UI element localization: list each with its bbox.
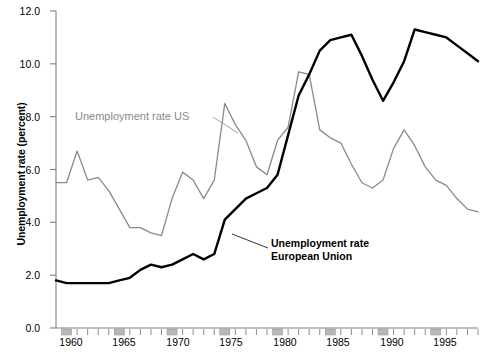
- x-tick-bar-major: [378, 329, 388, 335]
- series-line-eu: [56, 29, 478, 283]
- chart-figure: Unemployment rate (percent) 12.0 10.0 8.…: [0, 0, 498, 356]
- x-tick-bar-major: [167, 329, 177, 335]
- leader-line-eu: [232, 234, 268, 248]
- x-tick-bar-major: [114, 329, 124, 335]
- x-tick-bar-major: [62, 329, 72, 335]
- x-tick-bar-major: [273, 329, 283, 335]
- x-tick-bar-major: [220, 329, 230, 335]
- leader-line-us: [213, 117, 238, 133]
- x-tick-bar-major: [431, 329, 441, 335]
- x-tick-bar-major: [325, 329, 335, 335]
- series-line-us: [56, 72, 478, 236]
- series-layer: [56, 29, 478, 283]
- chart-canvas: [0, 0, 498, 356]
